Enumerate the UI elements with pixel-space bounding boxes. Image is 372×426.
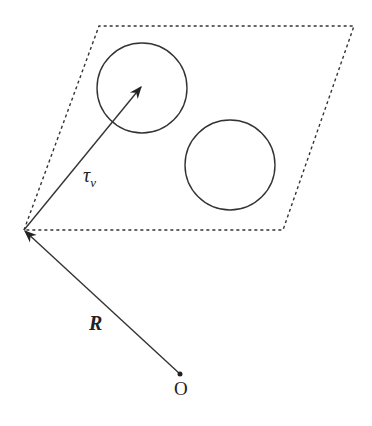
diagram-svg [0, 0, 372, 426]
diagram-canvas: τν R O [0, 0, 372, 426]
atom-circle-2 [185, 120, 275, 210]
nu-subscript: ν [90, 175, 96, 190]
origin-label: O [174, 378, 188, 400]
unit-cell-parallelogram [24, 26, 354, 230]
origin-point [178, 372, 183, 377]
r-vector-label: R [89, 312, 102, 335]
atom-circle-1 [97, 43, 187, 133]
r-vector-arrow [25, 231, 180, 374]
tau-vector-arrow [24, 87, 141, 230]
tau-nu-label: τν [83, 164, 96, 191]
